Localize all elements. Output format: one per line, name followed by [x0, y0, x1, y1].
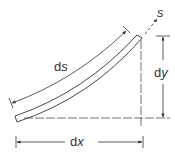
ds-label: ds	[54, 59, 68, 74]
ds-dimension	[9, 26, 130, 108]
s-direction-arrow	[145, 19, 157, 34]
dx-label: dx	[70, 134, 84, 149]
dy-label: dy	[154, 65, 169, 80]
arc-length-diagram: ds s dy dx	[0, 0, 175, 156]
curved-element	[15, 35, 142, 122]
reference-lines	[24, 40, 170, 127]
s-label: s	[157, 5, 164, 20]
